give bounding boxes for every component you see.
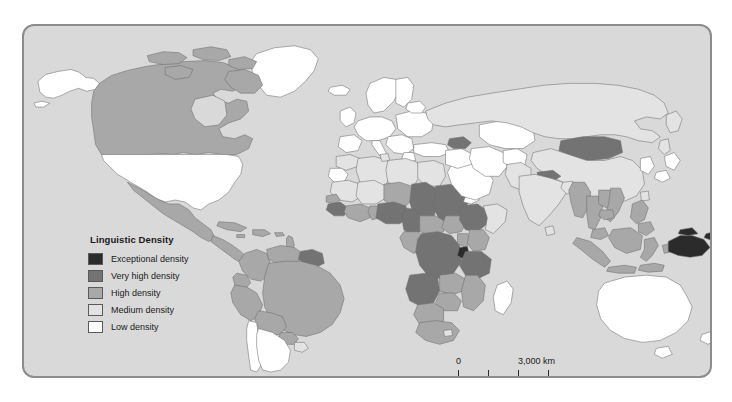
- legend-label-low: Low density: [111, 322, 159, 332]
- legend-item-medium[interactable]: Medium density: [88, 302, 248, 318]
- country-scandinavia[interactable]: [366, 77, 400, 113]
- country-venezuela[interactable]: [267, 245, 303, 263]
- country-uk-ireland[interactable]: [340, 107, 356, 127]
- legend-swatch-medium: [88, 304, 103, 316]
- country-sri-lanka[interactable]: [545, 226, 555, 236]
- map-scale-bar: 0 3,000 km: [456, 356, 586, 377]
- legend-label-high: High density: [111, 288, 161, 298]
- country-russia[interactable]: [426, 83, 669, 142]
- country-java[interactable]: [607, 265, 637, 273]
- country-borneo[interactable]: [609, 228, 643, 254]
- country-hispaniola[interactable]: [253, 230, 271, 237]
- legend-swatch-very-high: [88, 270, 103, 282]
- country-kamchatka[interactable]: [666, 111, 682, 133]
- scale-bar-rule: [458, 376, 548, 377]
- scale-bar-max-label: 3,000 km: [518, 356, 555, 366]
- country-papua-new-guinea[interactable]: [668, 236, 710, 258]
- country-western-sahara[interactable]: [328, 168, 348, 182]
- legend-item-high[interactable]: High density: [88, 285, 248, 301]
- scale-bar-labels: 0 3,000 km: [456, 356, 586, 368]
- country-uruguay[interactable]: [294, 342, 308, 352]
- country-alaska-islands[interactable]: [34, 101, 50, 107]
- legend-item-very-high[interactable]: Very high density: [88, 268, 248, 284]
- legend-swatch-high: [88, 287, 103, 299]
- country-ivory-ghana[interactable]: [344, 204, 370, 222]
- legend-label-medium: Medium density: [111, 305, 174, 315]
- country-japan-south[interactable]: [654, 170, 670, 182]
- country-korea[interactable]: [640, 157, 654, 175]
- country-balkans[interactable]: [386, 135, 414, 155]
- country-australia[interactable]: [597, 275, 692, 342]
- country-lesotho[interactable]: [444, 330, 453, 337]
- legend-label-exceptional: Exceptional density: [111, 254, 189, 264]
- country-somalia[interactable]: [483, 204, 507, 234]
- legend-title: Linguistic Density: [90, 234, 248, 245]
- country-cambodia[interactable]: [599, 210, 615, 220]
- country-cuba[interactable]: [217, 222, 247, 232]
- legend-swatch-low: [88, 321, 103, 333]
- scale-bar-graphic: [456, 369, 586, 377]
- country-united-states[interactable]: [102, 155, 243, 210]
- country-guinea-sierra-liberia[interactable]: [326, 202, 348, 216]
- country-png-islands-1[interactable]: [678, 228, 698, 236]
- scale-bar-tick-1: [488, 370, 489, 377]
- country-drc[interactable]: [416, 232, 462, 279]
- country-new-zealand-south[interactable]: [700, 331, 710, 345]
- legend-item-exceptional[interactable]: Exceptional density: [88, 251, 248, 267]
- country-tasmania[interactable]: [654, 346, 672, 358]
- country-turkey[interactable]: [414, 143, 450, 157]
- country-sumatra[interactable]: [573, 238, 611, 268]
- country-mali[interactable]: [356, 180, 386, 204]
- map-frame: Linguistic Density Exceptional density V…: [22, 24, 712, 378]
- country-png-islands-2[interactable]: [704, 232, 710, 241]
- legend-label-very-high: Very high density: [111, 271, 180, 281]
- country-niger[interactable]: [384, 182, 414, 206]
- country-india[interactable]: [519, 174, 567, 225]
- country-philippines-south[interactable]: [638, 222, 654, 236]
- country-taiwan[interactable]: [640, 191, 649, 201]
- country-malaysia[interactable]: [591, 228, 609, 240]
- scale-bar-tick-0: [458, 370, 459, 377]
- linguistic-density-figure: Linguistic Density Exceptional density V…: [0, 0, 732, 402]
- country-angola[interactable]: [406, 273, 440, 307]
- country-south-africa[interactable]: [416, 321, 460, 345]
- map-legend: Linguistic Density Exceptional density V…: [88, 234, 248, 336]
- scale-bar-tick-3: [548, 370, 549, 377]
- country-canada-arctic-2[interactable]: [193, 47, 231, 61]
- country-iceland[interactable]: [328, 85, 350, 95]
- country-philippines[interactable]: [630, 200, 648, 224]
- scale-bar-zero-label: 0: [456, 356, 461, 366]
- country-puerto-rico[interactable]: [275, 233, 285, 237]
- country-iberia[interactable]: [338, 135, 362, 153]
- country-greenland[interactable]: [251, 46, 319, 97]
- country-egypt[interactable]: [418, 160, 446, 186]
- country-madagascar[interactable]: [493, 281, 513, 315]
- country-indonesia-east[interactable]: [638, 263, 664, 272]
- legend-swatch-exceptional: [88, 253, 103, 265]
- scale-bar-tick-2: [518, 370, 519, 377]
- country-sakhalin[interactable]: [658, 139, 670, 155]
- country-baltics[interactable]: [406, 101, 426, 113]
- country-japan[interactable]: [664, 153, 680, 171]
- legend-item-low[interactable]: Low density: [88, 319, 248, 335]
- country-sulawesi[interactable]: [640, 238, 658, 262]
- country-caucasus[interactable]: [448, 137, 472, 149]
- country-alaska[interactable]: [38, 70, 100, 99]
- country-malawi-moz[interactable]: [461, 275, 485, 311]
- country-kenya[interactable]: [467, 230, 489, 252]
